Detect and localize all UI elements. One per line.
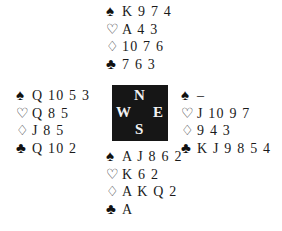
spade-icon: ♠	[16, 87, 32, 105]
west-spades: ♠Q 10 5 3	[16, 87, 90, 105]
heart-icon: ♡	[106, 166, 122, 184]
east-spades: ♠–	[181, 87, 271, 105]
east-hearts: ♡J 10 9 7	[181, 105, 271, 123]
west-spades-cards: Q 10 5 3	[32, 88, 90, 103]
diamond-icon: ♢	[16, 122, 32, 140]
north-clubs: ♣7 6 3	[106, 56, 172, 74]
west-hearts-cards: Q 8 5	[32, 106, 69, 121]
west-diamonds: ♢J 8 5	[16, 122, 90, 140]
north-clubs-cards: 7 6 3	[122, 57, 156, 72]
diamond-icon: ♢	[106, 183, 122, 201]
south-diamonds-cards: A K Q 2	[122, 184, 177, 199]
club-icon: ♣	[106, 56, 122, 74]
south-spades-cards: A J 8 6 2	[122, 149, 183, 164]
north-hearts-cards: A 4 3	[122, 22, 158, 37]
south-diamonds: ♢A K Q 2	[106, 183, 183, 201]
west-hand: ♠Q 10 5 3 ♡Q 8 5 ♢J 8 5 ♣Q 10 2	[16, 87, 90, 157]
west-diamonds-cards: J 8 5	[32, 123, 64, 138]
east-diamonds-cards: 9 4 3	[197, 123, 231, 138]
south-clubs-cards: A	[122, 202, 133, 217]
south-hearts-cards: K 6 2	[122, 167, 159, 182]
club-icon: ♣	[181, 140, 197, 158]
south-hearts: ♡K 6 2	[106, 166, 183, 184]
west-hearts: ♡Q 8 5	[16, 105, 90, 123]
north-diamonds-cards: 10 7 6	[122, 39, 164, 54]
compass-box: N W E S	[112, 85, 168, 141]
diamond-icon: ♢	[106, 38, 122, 56]
east-spades-cards: –	[197, 88, 205, 103]
spade-icon: ♠	[106, 3, 122, 21]
north-spades: ♠K 9 7 4	[106, 3, 172, 21]
spade-icon: ♠	[106, 148, 122, 166]
compass-north-label: N	[134, 87, 145, 104]
compass-west-label: W	[116, 104, 131, 121]
west-clubs: ♣Q 10 2	[16, 140, 90, 158]
north-spades-cards: K 9 7 4	[122, 4, 172, 19]
heart-icon: ♡	[16, 105, 32, 123]
east-hand: ♠– ♡J 10 9 7 ♢9 4 3 ♣K J 9 8 5 4	[181, 87, 271, 157]
north-hearts: ♡A 4 3	[106, 21, 172, 39]
east-hearts-cards: J 10 9 7	[197, 106, 251, 121]
spade-icon: ♠	[181, 87, 197, 105]
diamond-icon: ♢	[181, 122, 197, 140]
west-clubs-cards: Q 10 2	[32, 141, 77, 156]
compass-east-label: E	[153, 104, 163, 121]
heart-icon: ♡	[106, 21, 122, 39]
east-clubs-cards: K J 9 8 5 4	[197, 141, 271, 156]
south-hand: ♠A J 8 6 2 ♡K 6 2 ♢A K Q 2 ♣A	[106, 148, 183, 218]
east-clubs: ♣K J 9 8 5 4	[181, 140, 271, 158]
north-hand: ♠K 9 7 4 ♡A 4 3 ♢10 7 6 ♣7 6 3	[106, 3, 172, 73]
south-spades: ♠A J 8 6 2	[106, 148, 183, 166]
east-diamonds: ♢9 4 3	[181, 122, 271, 140]
heart-icon: ♡	[181, 105, 197, 123]
compass-south-label: S	[135, 121, 143, 138]
north-diamonds: ♢10 7 6	[106, 38, 172, 56]
south-clubs: ♣A	[106, 201, 183, 219]
club-icon: ♣	[16, 140, 32, 158]
club-icon: ♣	[106, 201, 122, 219]
